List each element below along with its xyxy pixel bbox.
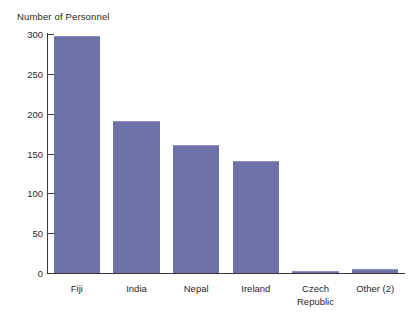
bar	[113, 121, 160, 273]
y-axis-tick-label: 100	[3, 188, 43, 199]
bar	[54, 36, 101, 273]
x-axis-category-label: Fiji	[47, 283, 107, 296]
y-axis-tick	[47, 273, 54, 274]
bar	[352, 269, 399, 273]
y-axis-tick-label: 0	[3, 268, 43, 279]
y-axis-tick-label: 250	[3, 68, 43, 79]
y-axis-tick-labels: 050100150200250300	[0, 0, 43, 319]
y-axis-tick-label: 150	[3, 148, 43, 159]
bar	[292, 271, 339, 273]
y-axis-tick	[47, 34, 54, 35]
bars-container	[47, 34, 405, 273]
y-axis-tick	[47, 114, 54, 115]
y-axis-tick-label: 50	[3, 228, 43, 239]
y-axis-tick	[47, 74, 54, 75]
x-axis-category-label: Nepal	[166, 283, 226, 296]
x-axis-category-label: India	[107, 283, 167, 296]
y-axis-tick	[47, 193, 54, 194]
bar-chart-figure: Number of Personnel 050100150200250300 F…	[0, 0, 418, 319]
x-axis-category-label: Czech Republic	[286, 283, 346, 308]
y-axis-tick	[47, 154, 54, 155]
x-axis-category-labels: FijiIndiaNepalIrelandCzech RepublicOther…	[47, 283, 405, 319]
bar	[173, 145, 220, 273]
y-axis-tick-label: 200	[3, 108, 43, 119]
y-axis-tick-label: 300	[3, 29, 43, 40]
x-axis-line	[47, 273, 405, 274]
x-axis-category-label: Ireland	[226, 283, 286, 296]
y-axis-tick	[47, 233, 54, 234]
bar	[233, 161, 280, 273]
x-axis-category-label: Other (2)	[345, 283, 405, 296]
